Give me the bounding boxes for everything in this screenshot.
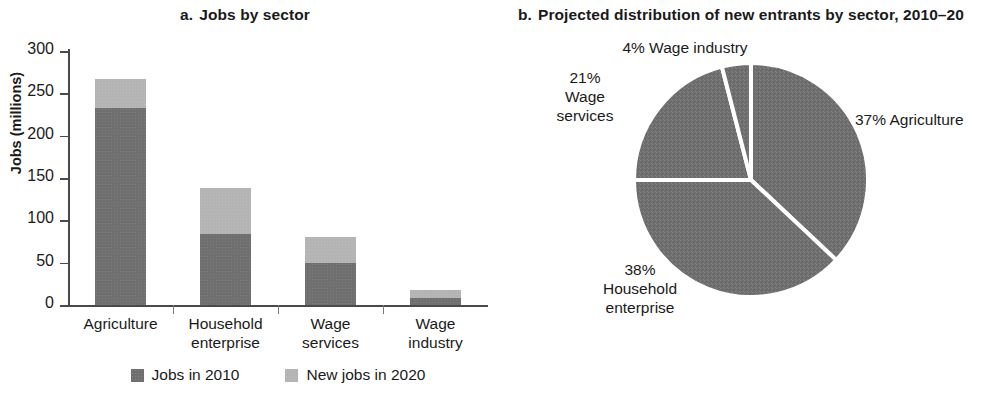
y-tick-label: 250	[27, 82, 54, 100]
pie-label-household-pct: 38%	[575, 260, 705, 279]
bar-segment-new-jobs-2020	[410, 290, 461, 298]
bar-segment-jobs-2010	[410, 298, 461, 305]
y-tick: 100	[60, 220, 68, 222]
x-tick	[173, 305, 174, 314]
panel-b-title: b.Projected distribution of new entrants…	[518, 6, 992, 24]
pie-label-wage-services-line1: Wage	[530, 87, 640, 106]
y-tick-label: 0	[45, 294, 54, 312]
bar-series-group	[68, 51, 488, 305]
x-category-label-line: enterprise	[173, 333, 278, 352]
x-category-label: Wageservices	[278, 314, 383, 352]
x-axis-category-labels: AgricultureHouseholdenterpriseWageservic…	[68, 314, 488, 374]
y-axis-title: Jobs (millions)	[8, 33, 24, 213]
y-tick-label: 50	[36, 252, 54, 270]
x-category-label-line: services	[278, 333, 383, 352]
panel-a-bar-chart: a.Jobs by sector Jobs (millions) 0501001…	[0, 0, 500, 398]
y-tick-label: 150	[27, 167, 54, 185]
legend-label: Jobs in 2010	[152, 366, 240, 384]
bar-segment-jobs-2010	[305, 263, 356, 305]
pie-label-wage-services-pct: 21%	[530, 68, 640, 87]
stacked-bar[interactable]	[95, 79, 146, 305]
y-tick-label: 300	[27, 40, 54, 58]
y-tick: 200	[60, 136, 68, 138]
panel-b-title-text: Projected distribution of new entrants b…	[538, 6, 964, 23]
y-tick: 300	[60, 51, 68, 53]
pie-label-household-line1: Household	[575, 279, 705, 298]
bar-group	[68, 51, 173, 305]
bar-segment-new-jobs-2020	[305, 237, 356, 262]
panel-b-marker: b.	[518, 6, 532, 23]
legend-item[interactable]: Jobs in 2010	[131, 366, 240, 384]
pie-label-wage-services: 21% Wage services	[530, 68, 640, 125]
y-tick-label: 100	[27, 209, 54, 227]
stacked-bar[interactable]	[410, 290, 461, 305]
y-tick: 150	[60, 178, 68, 180]
figure-root: a.Jobs by sector Jobs (millions) 0501001…	[0, 0, 992, 398]
pie-label-agriculture: 37% Agriculture	[855, 110, 964, 129]
bar-plot-area: 050100150200250300	[68, 51, 488, 305]
x-category-label-line: Household	[173, 314, 278, 333]
x-category-label: Householdenterprise	[173, 314, 278, 352]
x-tick	[278, 305, 279, 314]
y-tick: 250	[60, 93, 68, 95]
legend-label: New jobs in 2020	[306, 366, 425, 384]
pie-label-wage-services-line2: services	[530, 106, 640, 125]
legend-swatch-icon	[285, 369, 298, 382]
x-category-label-line: Wage	[383, 314, 488, 333]
legend-item[interactable]: New jobs in 2020	[285, 366, 425, 384]
bar-segment-new-jobs-2020	[95, 79, 146, 108]
bar-group	[278, 51, 383, 305]
bar-segment-new-jobs-2020	[200, 188, 251, 234]
x-category-label-line: Agriculture	[68, 314, 173, 333]
y-tick: 50	[60, 263, 68, 265]
bar-chart-legend: Jobs in 2010New jobs in 2020	[68, 366, 488, 384]
pie-label-agriculture-text: 37% Agriculture	[855, 111, 964, 128]
x-category-label: Wageindustry	[383, 314, 488, 352]
stacked-bar[interactable]	[200, 188, 251, 305]
panel-a-title: a.Jobs by sector	[0, 6, 490, 24]
pie-label-wage-industry-text: 4% Wage industry	[622, 39, 747, 56]
bar-segment-jobs-2010	[95, 108, 146, 305]
x-category-label: Agriculture	[68, 314, 173, 333]
panel-a-title-text: Jobs by sector	[199, 6, 310, 23]
x-tick	[383, 305, 384, 314]
pie-label-household-enterprise: 38% Household enterprise	[575, 260, 705, 317]
bar-segment-jobs-2010	[200, 234, 251, 305]
y-tick-label: 200	[27, 125, 54, 143]
pie-label-household-line2: enterprise	[575, 298, 705, 317]
bar-group	[173, 51, 278, 305]
pie-label-wage-industry: 4% Wage industry	[622, 38, 747, 57]
x-category-label-line: industry	[383, 333, 488, 352]
stacked-bar[interactable]	[305, 237, 356, 305]
legend-swatch-icon	[131, 369, 144, 382]
x-category-label-line: Wage	[278, 314, 383, 333]
panel-a-marker: a.	[180, 6, 193, 23]
y-tick: 0	[60, 305, 68, 307]
panel-b-pie-chart: b.Projected distribution of new entrants…	[500, 0, 992, 398]
bar-group	[383, 51, 488, 305]
